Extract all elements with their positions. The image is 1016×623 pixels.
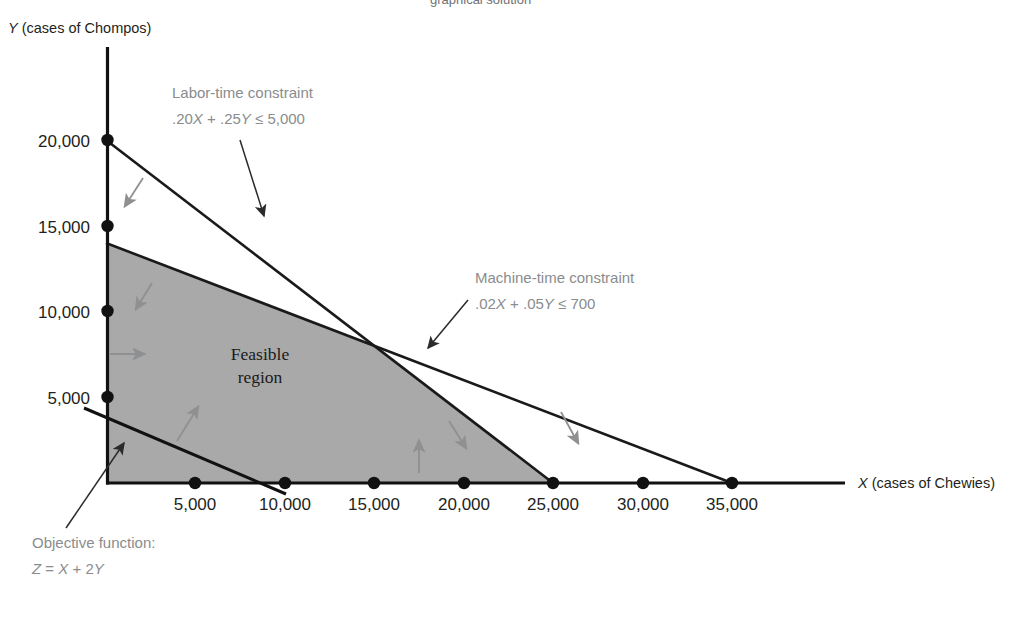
x-tick-label-25000: 25,000 (527, 495, 579, 514)
objective-function-title: Objective function: (32, 534, 155, 551)
x-tick-dot-20000 (458, 477, 470, 489)
x-axis-title-rest: (cases of Chewies) (868, 475, 995, 491)
y-tick-dot-20000 (101, 134, 113, 146)
machine-constraint-title: Machine-time constraint (475, 269, 635, 286)
y-tick-dot-10000 (101, 305, 113, 317)
obj-eq-y: Y (94, 560, 105, 577)
feasible-region-label-line1: Feasible (231, 344, 290, 364)
x-tick-dot-10000 (279, 477, 291, 489)
x-tick-label-15000: 15,000 (348, 495, 400, 514)
x-tick-dot-15000 (368, 477, 380, 489)
labor-eq-p1: .20 (172, 110, 193, 127)
y-axis-title: Y (cases of Chompos) (8, 20, 151, 36)
y-tick-dot-5000 (101, 391, 113, 403)
x-tick-label-5000: 5,000 (174, 495, 217, 514)
obj-eq-p1: = (41, 560, 58, 577)
machine-constraint-leader-arrow (428, 300, 468, 348)
obj-eq-p2: + 2 (68, 560, 93, 577)
machine-eq-p3: ≤ 700 (554, 295, 596, 312)
x-tick-dot-35000 (726, 477, 738, 489)
feasible-region-label-line2: region (238, 367, 283, 387)
linear-programming-chart: graphical solution 20,000 15,000 10,000 … (0, 0, 1016, 623)
x-tick-dot-25000 (547, 477, 559, 489)
x-axis-title: X (cases of Chewies) (857, 475, 995, 491)
y-tick-label-20000: 20,000 (38, 132, 90, 151)
gray-direction-arrow-labor-upper (125, 178, 143, 206)
labor-constraint-leader-arrow (240, 140, 264, 216)
labor-eq-p2: + .25 (203, 110, 241, 127)
x-tick-dot-30000 (637, 477, 649, 489)
machine-eq-p2: + .05 (506, 295, 544, 312)
labor-eq-p3: ≤ 5,000 (251, 110, 305, 127)
x-tick-label-20000: 20,000 (438, 495, 490, 514)
x-tick-dot-5000 (189, 477, 201, 489)
objective-function-leader-arrow (66, 443, 124, 528)
chart-svg: graphical solution 20,000 15,000 10,000 … (0, 0, 1016, 623)
y-tick-label-15000: 15,000 (38, 218, 90, 237)
y-axis-title-rest: (cases of Chompos) (18, 20, 152, 36)
x-tick-label-35000: 35,000 (706, 495, 758, 514)
labor-constraint-title: Labor-time constraint (172, 84, 314, 101)
machine-constraint-equation: .02X + .05Y ≤ 700 (475, 295, 595, 312)
gray-direction-arrow-labor-lower (561, 412, 578, 443)
objective-function-equation: Z = X + 2Y (31, 560, 105, 577)
machine-eq-p1: .02 (475, 295, 496, 312)
cut-off-title: graphical solution (430, 0, 531, 7)
y-tick-label-10000: 10,000 (38, 303, 90, 322)
y-tick-dot-15000 (101, 220, 113, 232)
labor-constraint-equation: .20X + .25Y ≤ 5,000 (172, 110, 305, 127)
x-tick-label-10000: 10,000 (259, 495, 311, 514)
y-tick-label-5000: 5,000 (47, 389, 90, 408)
x-tick-label-30000: 30,000 (617, 495, 669, 514)
cut-title-text: graphical solution (430, 0, 531, 7)
